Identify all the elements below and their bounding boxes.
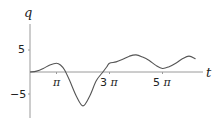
y-axis-label: q bbox=[24, 6, 32, 19]
x-tick-label-3pi: 3 π bbox=[100, 77, 118, 88]
x-tick-label-pi: π bbox=[53, 77, 60, 88]
y-tick-label-neg5: −5 bbox=[10, 89, 26, 100]
chart-plot-area bbox=[0, 0, 220, 122]
x-tick-3-num: 3 bbox=[100, 76, 107, 89]
x-axis-label: t bbox=[206, 66, 211, 79]
x-tick-3-pi: π bbox=[111, 76, 118, 89]
x-tick-5-pi: π bbox=[164, 76, 171, 89]
x-tick-5-num: 5 bbox=[153, 76, 160, 89]
x-tick-label-5pi: 5 π bbox=[153, 77, 171, 88]
y-tick-label-5: 5 bbox=[18, 44, 25, 55]
